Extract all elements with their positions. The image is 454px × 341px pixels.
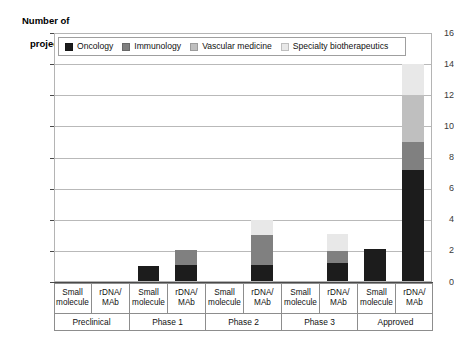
bar-chart: Number of projects 0246810121416 Oncolog… (0, 0, 454, 341)
x-category-label-line: molecule (56, 298, 89, 308)
x-category-label-line: MAb (330, 298, 347, 308)
bar-segment[interactable] (251, 235, 273, 265)
x-group-label: Phase 2 (206, 313, 282, 331)
legend-swatch-icon (190, 43, 198, 51)
bar-segment[interactable] (364, 249, 386, 282)
x-category-label: Smallmolecule (358, 283, 396, 313)
legend-swatch-icon (65, 43, 73, 51)
x-category-label: rDNA/MAb (396, 283, 433, 313)
x-category-label: Smallmolecule (282, 283, 320, 313)
x-category-label-line: rDNA/ (99, 288, 121, 298)
legend-label: Vascular medicine (202, 42, 272, 51)
x-category-label-line: MAb (178, 298, 195, 308)
x-group-label: Preclinical (54, 313, 130, 331)
legend-item[interactable]: Vascular medicine (190, 42, 272, 51)
y-axis-title-line1: Number of (22, 15, 70, 26)
x-category-label-line: Small (62, 288, 82, 298)
bar-stack[interactable] (175, 250, 197, 282)
x-category-label-line: rDNA/ (251, 288, 273, 298)
label-band-right-border (432, 283, 433, 331)
bar-segment[interactable] (138, 266, 160, 282)
x-category-label: rDNA/MAb (168, 283, 206, 313)
x-category-label-line: Small (214, 288, 234, 298)
bar-stack[interactable] (251, 220, 273, 282)
x-category-label-line: molecule (208, 298, 241, 308)
x-category-label-line: rDNA/ (175, 288, 197, 298)
x-category-label-line: MAb (406, 298, 423, 308)
bar-segment[interactable] (251, 220, 273, 235)
x-group-label: Phase 3 (282, 313, 358, 331)
x-category-label: Smallmolecule (130, 283, 168, 313)
bar-stack[interactable] (402, 64, 424, 282)
legend-swatch-icon (281, 43, 289, 51)
legend-swatch-icon (122, 43, 130, 51)
label-band-left-border (54, 283, 55, 331)
legend-label: Specialty biotherapeutics (293, 42, 389, 51)
x-category-label-line: Small (366, 288, 386, 298)
bars-layer (54, 33, 432, 282)
bar-segment[interactable] (327, 263, 349, 282)
bar-segment[interactable] (402, 64, 424, 95)
x-category-label-line: molecule (284, 298, 317, 308)
bar-segment[interactable] (175, 250, 197, 265)
x-category-label: Smallmolecule (54, 283, 92, 313)
x-axis-group-labels: PreclinicalPhase 1Phase 2Phase 3Approved (54, 313, 433, 331)
x-category-label-line: rDNA/ (327, 288, 349, 298)
label-band-top-border (54, 283, 433, 284)
bar-stack[interactable] (138, 266, 160, 282)
legend-label: Immunology (134, 42, 181, 51)
bar-segment[interactable] (251, 265, 273, 282)
bar-segment[interactable] (402, 95, 424, 142)
label-band-bottom-border (54, 330, 433, 331)
x-category-label-line: MAb (102, 298, 119, 308)
bar-stack[interactable] (327, 234, 349, 282)
chart-legend: OncologyImmunologyVascular medicineSpeci… (58, 37, 406, 56)
legend-item[interactable]: Oncology (65, 42, 113, 51)
bar-segment[interactable] (327, 251, 349, 263)
legend-label: Oncology (77, 42, 113, 51)
x-category-label-line: Small (290, 288, 310, 298)
bar-stack[interactable] (364, 249, 386, 282)
legend-item[interactable]: Immunology (122, 42, 181, 51)
x-category-label: Smallmolecule (206, 283, 244, 313)
x-group-label: Approved (358, 313, 433, 331)
label-band-mid-border (54, 313, 433, 314)
x-category-label-line: molecule (132, 298, 165, 308)
x-category-label-line: MAb (254, 298, 271, 308)
x-category-label: rDNA/MAb (92, 283, 130, 313)
bar-segment[interactable] (402, 170, 424, 282)
legend-item[interactable]: Specialty biotherapeutics (281, 42, 389, 51)
x-category-label-line: molecule (360, 298, 393, 308)
bar-segment[interactable] (175, 265, 197, 282)
x-group-label: Phase 1 (130, 313, 206, 331)
x-category-label: rDNA/MAb (244, 283, 282, 313)
x-category-label-line: Small (138, 288, 158, 298)
x-category-label-line: rDNA/ (403, 288, 425, 298)
bar-segment[interactable] (327, 234, 349, 251)
bar-segment[interactable] (402, 142, 424, 170)
x-axis-category-labels: SmallmoleculerDNA/MAbSmallmoleculerDNA/M… (54, 283, 433, 313)
x-category-label: rDNA/MAb (320, 283, 358, 313)
